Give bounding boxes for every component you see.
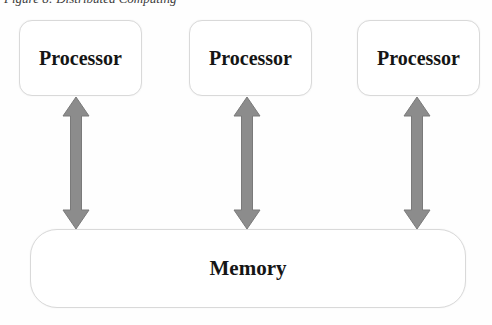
bidirectional-arrow-icon xyxy=(62,97,90,229)
arrow-shape xyxy=(234,97,260,229)
processor-label: Processor xyxy=(377,47,460,70)
processor-label: Processor xyxy=(39,47,122,70)
processor-node-3: Processor xyxy=(357,20,480,96)
memory-node: Memory xyxy=(30,229,466,308)
bidirectional-arrow-icon xyxy=(403,97,431,229)
figure-caption: Figure 8: Distributed Computing xyxy=(4,0,177,7)
arrow-shape xyxy=(404,97,430,229)
distributed-computing-diagram: Figure 8: Distributed Computing Processo… xyxy=(0,0,492,325)
memory-label: Memory xyxy=(210,256,287,281)
processor-node-2: Processor xyxy=(189,20,312,96)
arrow-shape xyxy=(63,97,89,229)
bidirectional-arrow-icon xyxy=(233,97,261,229)
processor-node-1: Processor xyxy=(19,20,142,96)
processor-label: Processor xyxy=(209,47,292,70)
